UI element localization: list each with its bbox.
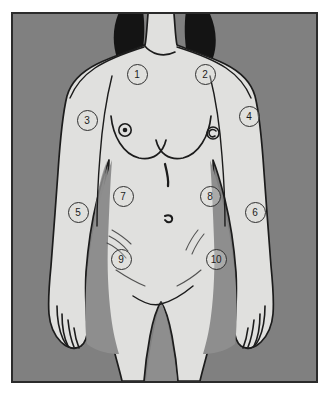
marker-4[interactable]: 4 [239,106,260,127]
marker-6[interactable]: 6 [245,202,266,223]
marker-3[interactable]: 3 [77,110,98,131]
marker-2[interactable]: 2 [195,64,216,85]
marker-1[interactable]: 1 [127,64,148,85]
marker-8[interactable]: 8 [200,186,221,207]
marker-10[interactable]: 10 [206,249,227,270]
marker-5[interactable]: 5 [68,202,89,223]
marker-9[interactable]: 9 [111,249,132,270]
figure-root: 1 2 3 4 5 6 7 8 9 10 [0,0,331,410]
body-illustration [13,14,316,381]
illustration-frame: 1 2 3 4 5 6 7 8 9 10 [11,12,318,383]
marker-7[interactable]: 7 [113,186,134,207]
